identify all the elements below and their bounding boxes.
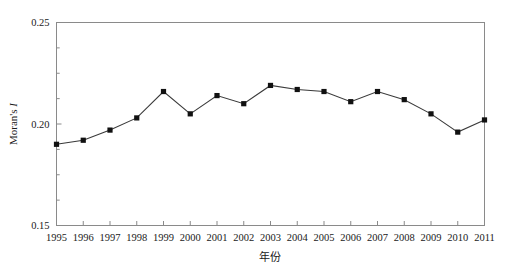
data-point-marker xyxy=(455,130,460,135)
x-tick-label: 2007 xyxy=(367,232,388,243)
data-point-marker xyxy=(81,138,86,143)
data-point-marker xyxy=(321,89,326,94)
x-tick-label: 2002 xyxy=(233,232,254,243)
y-tick-label: 0.20 xyxy=(31,119,49,130)
data-point-marker xyxy=(375,89,380,94)
x-tick-label: 2003 xyxy=(260,232,281,243)
data-point-marker xyxy=(214,93,219,98)
y-tick-label: 0.25 xyxy=(31,17,49,28)
chart-figure: 0.150.200.25 199519961997199819992000200… xyxy=(0,0,510,266)
x-tick-label: 2010 xyxy=(447,232,468,243)
x-axis-title: 年份 xyxy=(259,250,281,263)
y-tick-label: 0.15 xyxy=(31,220,49,231)
x-tick-label: 2011 xyxy=(474,232,495,243)
data-point-marker xyxy=(482,117,487,122)
x-tick-label: 1996 xyxy=(73,232,94,243)
x-tick-label: 1998 xyxy=(126,232,147,243)
chart-background xyxy=(0,0,510,266)
x-tick-label: 2009 xyxy=(421,232,442,243)
data-point-marker xyxy=(268,83,273,88)
data-point-marker xyxy=(188,111,193,116)
data-point-marker xyxy=(54,142,59,147)
x-tick-label: 2005 xyxy=(314,232,335,243)
x-tick-label: 1999 xyxy=(153,232,174,243)
x-axis-tick-labels: 1995199619971998199920002001200220032004… xyxy=(46,232,495,243)
data-point-marker xyxy=(107,127,112,132)
x-tick-label: 1997 xyxy=(100,232,121,243)
data-point-marker xyxy=(134,115,139,120)
y-axis-title-prefix: Moran's xyxy=(7,107,19,145)
data-point-marker xyxy=(428,111,433,116)
moran-i-line-chart: 0.150.200.25 199519961997199819992000200… xyxy=(0,0,510,266)
x-tick-label: 2001 xyxy=(207,232,228,243)
y-axis-title: Moran's I xyxy=(7,102,19,145)
data-point-marker xyxy=(402,97,407,102)
x-tick-label: 1995 xyxy=(46,232,67,243)
x-tick-label: 2006 xyxy=(340,232,361,243)
x-tick-label: 2008 xyxy=(394,232,415,243)
x-tick-label: 2004 xyxy=(287,232,309,243)
data-point-marker xyxy=(161,89,166,94)
x-tick-label: 2000 xyxy=(180,232,201,243)
data-point-marker xyxy=(348,99,353,104)
data-point-marker xyxy=(241,101,246,106)
data-point-marker xyxy=(295,87,300,92)
